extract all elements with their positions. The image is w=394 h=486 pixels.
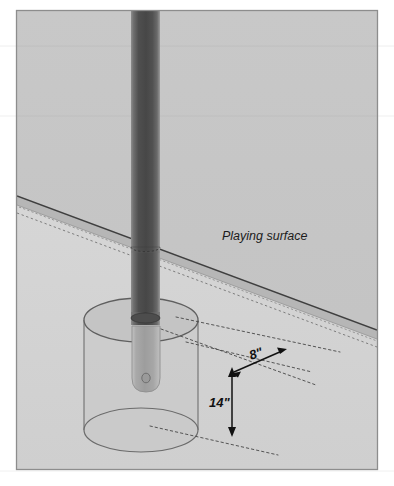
pole-bottom-ellipse: [131, 313, 160, 323]
inner-sleeve: [132, 326, 160, 392]
technical-illustration: 8" 14" Playing surface: [0, 0, 394, 486]
playing-surface-label: Playing surface: [222, 229, 308, 243]
depth-dimension-label: 14": [209, 395, 230, 410]
pole-shaft: [131, 11, 160, 325]
illustration-scene: 8" 14" Playing surface: [17, 11, 377, 469]
illustration-canvas: 8" 14" Playing surface: [0, 0, 394, 486]
pole: [131, 11, 160, 325]
cylinder-bottom-ellipse: [84, 408, 198, 452]
sleeve-bolt-hole-icon: [142, 373, 150, 383]
